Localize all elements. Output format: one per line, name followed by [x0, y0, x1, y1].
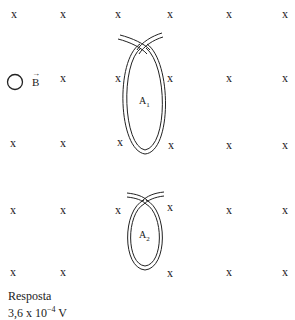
loop-a2-label: A2	[139, 229, 150, 243]
field-label: → B	[32, 76, 39, 88]
field-circle-icon	[8, 75, 23, 90]
answer-value: 3,6 x 10−4 V	[8, 303, 67, 320]
loop-a1	[118, 33, 166, 154]
loop-a1-label: A1	[139, 95, 150, 109]
answer-title: Resposta	[8, 290, 51, 303]
